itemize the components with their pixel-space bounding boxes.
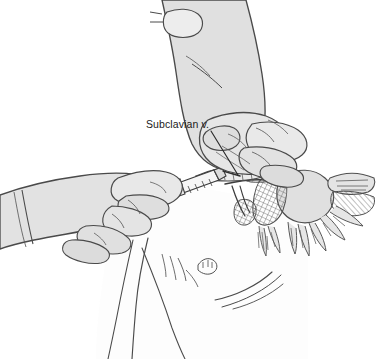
subclavian-cannulation-figure: Subclavian v.: [0, 0, 377, 359]
right-sleeve-cuff: [163, 9, 202, 37]
subclavian-vein-label: Subclavian v.: [146, 118, 209, 130]
illustration-canvas: Subclavian v.: [0, 0, 377, 359]
